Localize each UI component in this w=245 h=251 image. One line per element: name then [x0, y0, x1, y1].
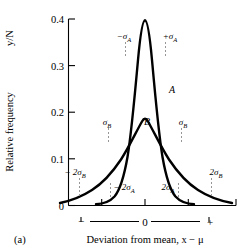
- annotation-labels: −σA +σA σB σB − 2σB − 2σA 2σA 2σB A B: [64, 31, 222, 194]
- figure-panel-a: Relative frequency y/N 0.4 0.3 0.2 0.1 0: [0, 0, 245, 251]
- curve-a-path: [96, 20, 194, 204]
- x-zero-mark: 0: [142, 216, 148, 228]
- panel-caption: (a): [14, 234, 26, 246]
- label-neg-2sigma-a: − 2σA: [113, 182, 134, 194]
- label-sigma-b-left: σB: [103, 117, 111, 129]
- y-tick-label-0.1: 0.1: [51, 154, 64, 165]
- x-plus-mark: +: [207, 216, 213, 228]
- label-curve-b: B: [144, 116, 150, 127]
- x-axis-scale-bar: − 0 +: [78, 215, 213, 228]
- y-axis-title-symbol: y/N: [4, 30, 15, 46]
- label-curve-a: A: [168, 84, 176, 95]
- y-axis-title: Relative frequency y/N: [4, 30, 15, 172]
- x-axis: [69, 199, 237, 206]
- label-neg-2sigma-b: − 2σB: [64, 167, 85, 179]
- y-axis-title-main: Relative frequency: [4, 91, 15, 171]
- x-minus-mark: −: [78, 215, 84, 227]
- normal-distribution-chart: Relative frequency y/N 0.4 0.3 0.2 0.1 0: [0, 0, 245, 251]
- y-tick-label-0.4: 0.4: [51, 14, 65, 25]
- y-tick-label-0.3: 0.3: [51, 61, 64, 72]
- label-pos-2sigma-b: 2σB: [210, 167, 223, 179]
- label-neg-sigma-a: −σA: [117, 31, 132, 43]
- x-axis-title: Deviation from mean, x − μ: [86, 234, 203, 245]
- y-axis: 0.4 0.3 0.2 0.1 0: [51, 14, 75, 212]
- label-pos-2sigma-a: 2σA: [162, 182, 175, 194]
- label-pos-sigma-a: +σA: [163, 31, 178, 43]
- y-tick-label-0.2: 0.2: [51, 107, 64, 118]
- label-sigma-b-right: σB: [179, 117, 187, 129]
- curve-b-path: [60, 119, 232, 203]
